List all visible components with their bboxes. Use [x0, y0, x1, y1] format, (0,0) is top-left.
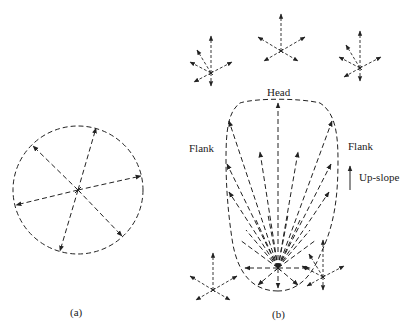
diagram-canvas: [0, 0, 409, 331]
label-flank-right: Flank: [348, 140, 373, 152]
small-star-2: [258, 14, 305, 61]
label-upslope: Up-slope: [359, 171, 399, 183]
small-star-4: [190, 253, 237, 300]
label-head: Head: [267, 86, 290, 98]
label-panel-b: (b): [272, 308, 285, 320]
panel-b-teardrop-diagram: [226, 99, 338, 291]
small-star-3: [339, 31, 381, 81]
label-flank-left: Flank: [189, 142, 214, 154]
small-star-1: [190, 36, 232, 86]
label-panel-a: (a): [70, 306, 82, 318]
